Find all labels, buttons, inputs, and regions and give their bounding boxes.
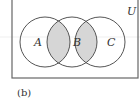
set-a-label: A	[33, 36, 42, 49]
universe-label: U	[127, 5, 137, 18]
set-b-label: B	[72, 36, 81, 49]
venn-diagram: A B C U (b)	[0, 0, 140, 99]
set-c-label: C	[107, 36, 116, 49]
figure-caption: (b)	[17, 87, 31, 98]
